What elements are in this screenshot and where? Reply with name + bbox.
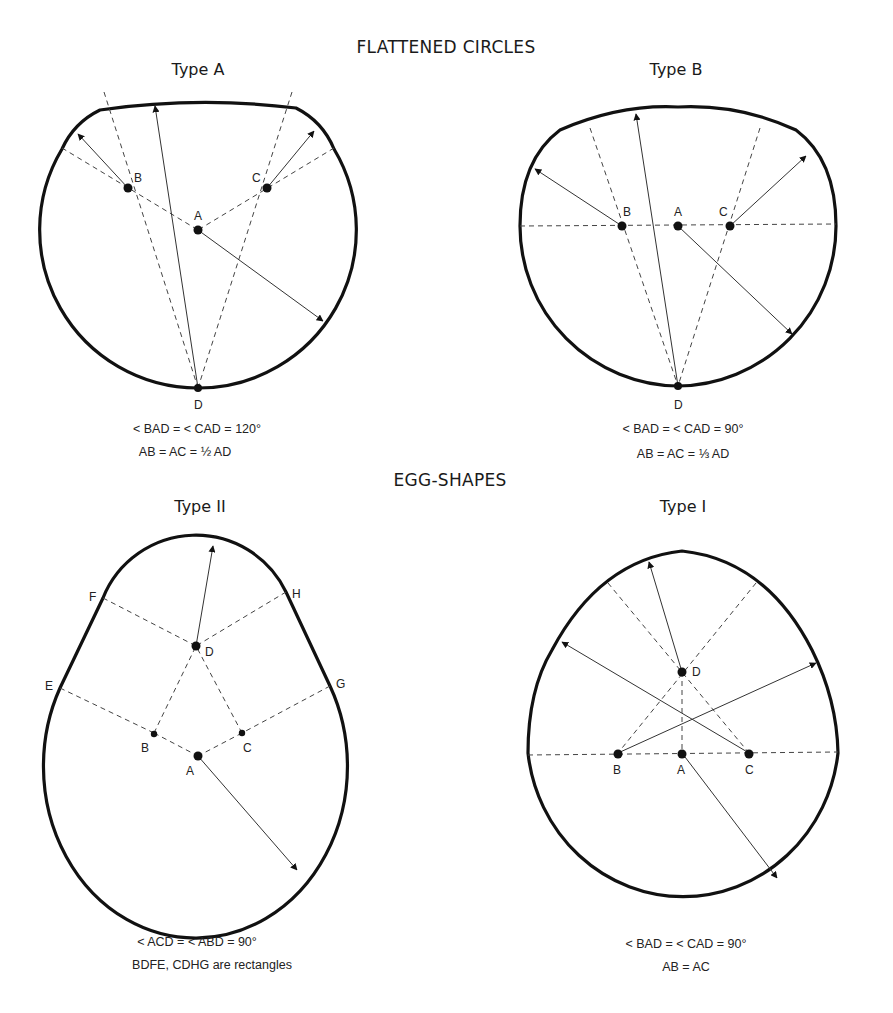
type-ii-label-e: E bbox=[45, 679, 53, 693]
type-b-point-c bbox=[726, 222, 735, 231]
type-b-point-a bbox=[674, 222, 683, 231]
type-i-caption-lengths: AB = AC bbox=[662, 960, 710, 974]
type-a-label-c: C bbox=[252, 171, 261, 185]
type-i-caption-angles: < BAD = < CAD = 90° bbox=[625, 937, 746, 951]
type-ii-figure: D B C A F H E G bbox=[43, 535, 347, 938]
type-b-label-a: A bbox=[674, 205, 682, 219]
type-ii-point-b bbox=[151, 731, 157, 737]
type-a-outline bbox=[40, 102, 357, 388]
type-b-point-b bbox=[618, 222, 627, 231]
type-i-label-b: B bbox=[613, 763, 621, 777]
type-a-point-b bbox=[124, 184, 133, 193]
type-ii-caption-rectangles: BDFE, CDHG are rectangles bbox=[132, 958, 292, 972]
type-b-figure: B A C D bbox=[520, 107, 836, 412]
type-i-label-a: A bbox=[677, 763, 685, 777]
type-i-point-c bbox=[745, 750, 754, 759]
type-ii-label-f: F bbox=[89, 590, 96, 604]
type-ii-label-b: B bbox=[141, 741, 149, 755]
type-ii-caption-angles: < ACD = < ABD = 90° bbox=[137, 935, 257, 949]
type-ii-label-g: G bbox=[336, 677, 345, 691]
type-ii-label-c: C bbox=[243, 741, 252, 755]
type-a-point-c bbox=[263, 184, 272, 193]
type-b-label-c: C bbox=[719, 205, 728, 219]
type-ii-point-a bbox=[194, 752, 203, 761]
type-ii-label-d: D bbox=[205, 645, 214, 659]
geometry-figures: B C A D B A C D bbox=[0, 0, 893, 1013]
type-a-figure: B C A D bbox=[40, 92, 357, 412]
type-i-label-c: C bbox=[745, 763, 754, 777]
type-i-point-d bbox=[678, 668, 687, 677]
type-a-point-d bbox=[194, 384, 202, 392]
type-a-label-d: D bbox=[194, 398, 203, 412]
type-a-caption-lengths: AB = AC = ½ AD bbox=[139, 445, 231, 459]
type-b-caption-angles: < BAD = < CAD = 90° bbox=[622, 422, 743, 436]
type-b-label-d: D bbox=[674, 398, 683, 412]
type-i-point-b bbox=[614, 750, 623, 759]
type-i-label-d: D bbox=[692, 665, 701, 679]
type-i-point-a bbox=[678, 750, 687, 759]
type-ii-point-d bbox=[192, 642, 201, 651]
type-a-label-a: A bbox=[194, 209, 202, 223]
type-i-figure: D B A C bbox=[528, 551, 838, 897]
type-b-outline bbox=[520, 107, 836, 386]
type-b-caption-lengths: AB = AC = ⅓ AD bbox=[637, 447, 729, 461]
type-ii-label-h: H bbox=[292, 587, 301, 601]
type-a-label-b: B bbox=[134, 171, 142, 185]
type-b-label-b: B bbox=[623, 205, 631, 219]
type-ii-label-a: A bbox=[186, 764, 194, 778]
type-ii-point-c bbox=[239, 730, 245, 736]
type-a-caption-angles: < BAD = < CAD = 120° bbox=[133, 422, 261, 436]
type-b-point-d bbox=[674, 382, 682, 390]
type-a-point-a bbox=[194, 226, 203, 235]
